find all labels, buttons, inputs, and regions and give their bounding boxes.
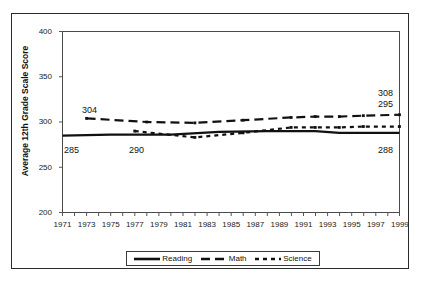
x-tick-label-1979: 1979 [147, 220, 171, 229]
series-marker-math [362, 114, 365, 117]
legend-label-science: Science [283, 254, 311, 263]
x-tick-label-1991: 1991 [292, 220, 316, 229]
series-marker-math [193, 122, 196, 125]
x-tick-marks [63, 213, 400, 217]
x-tick-label-1987: 1987 [243, 220, 267, 229]
x-tick-label-1995: 1995 [340, 220, 364, 229]
x-tick-label-1983: 1983 [195, 220, 219, 229]
annotation-math-1973: 304 [82, 105, 97, 115]
annotation-science-1999: 295 [378, 99, 393, 109]
series-marker-math [242, 119, 245, 122]
annotation-math-1999: 308 [378, 88, 393, 98]
series-marker-science [314, 126, 317, 129]
annotation-reading-1971: 285 [64, 145, 79, 155]
x-tick-label-1993: 1993 [316, 220, 340, 229]
series-marker-math [398, 113, 401, 116]
x-tick-label-1985: 1985 [219, 220, 243, 229]
annotation-reading-1999: 288 [378, 145, 393, 155]
series-marker-science [242, 131, 245, 134]
series-marker-science [362, 125, 365, 128]
y-tick-label-350: 350 [28, 72, 52, 81]
series-marker-math [145, 121, 148, 124]
legend-swatch-dotted-icon [255, 255, 281, 263]
series-marker-science [398, 125, 401, 128]
legend-item-reading[interactable]: Reading [134, 254, 192, 263]
chart-legend: Reading Math Science [126, 251, 320, 266]
legend-swatch-solid-icon [134, 255, 160, 263]
chart-canvas [0, 0, 421, 281]
series-marker-math [338, 115, 341, 118]
series-marker-math [314, 115, 317, 118]
series-marker-math [85, 117, 88, 120]
x-tick-label-1973: 1973 [75, 220, 99, 229]
series-marker-science [193, 136, 196, 139]
legend-swatch-dashed-icon [201, 255, 227, 263]
y-tick-label-200: 200 [28, 208, 52, 217]
legend-label-math: Math [229, 254, 247, 263]
y-tick-label-250: 250 [28, 163, 52, 172]
legend-label-reading: Reading [162, 254, 192, 263]
legend-item-math[interactable]: Math [201, 254, 247, 263]
y-tick-marks [59, 32, 63, 213]
x-tick-label-1971: 1971 [51, 220, 75, 229]
y-tick-label-400: 400 [28, 27, 52, 36]
series-marker-math [290, 116, 293, 119]
y-tick-label-300: 300 [28, 117, 52, 126]
x-tick-label-1981: 1981 [171, 220, 195, 229]
series-marker-science [338, 126, 341, 129]
x-tick-label-1997: 1997 [364, 220, 388, 229]
x-tick-label-1999: 1999 [388, 220, 412, 229]
chart-figure: Average 12th Grade Scale Score 400 350 3… [0, 0, 421, 281]
plot-area-border [63, 32, 400, 213]
annotation-science-1977: 290 [129, 145, 144, 155]
x-tick-label-1989: 1989 [267, 220, 291, 229]
x-tick-label-1977: 1977 [123, 220, 147, 229]
legend-item-science[interactable]: Science [255, 254, 311, 263]
series-marker-science [133, 130, 136, 133]
series-marker-science [290, 126, 293, 129]
x-tick-label-1975: 1975 [99, 220, 123, 229]
